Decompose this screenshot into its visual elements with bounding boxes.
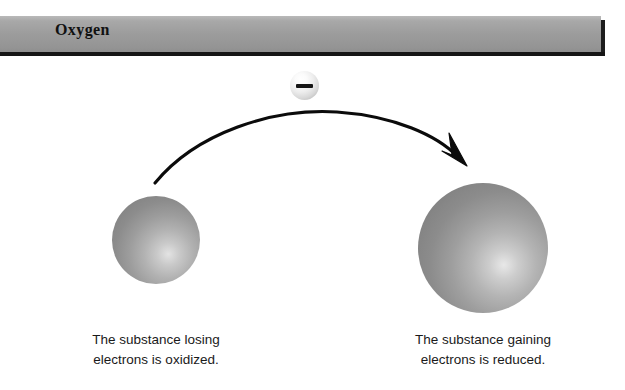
caption-oxidized: The substance losing electrons is oxidiz…	[66, 330, 246, 370]
minus-charge-icon	[296, 84, 313, 88]
caption-reduced-line2: electrons is reduced.	[392, 350, 574, 370]
caption-reduced-line1: The substance gaining	[392, 330, 574, 350]
caption-reduced: The substance gaining electrons is reduc…	[392, 330, 574, 370]
header-band-bottom-rule	[0, 52, 605, 56]
donor-sphere	[112, 196, 200, 284]
electron-sphere	[290, 71, 319, 100]
page-title: Oxygen	[55, 21, 110, 39]
caption-oxidized-line2: electrons is oxidized.	[66, 350, 246, 370]
acceptor-sphere	[418, 183, 548, 313]
header-band-right-edge	[601, 20, 605, 56]
figure-canvas: Oxygen The substance losing electrons is…	[0, 0, 625, 390]
caption-oxidized-line1: The substance losing	[66, 330, 246, 350]
